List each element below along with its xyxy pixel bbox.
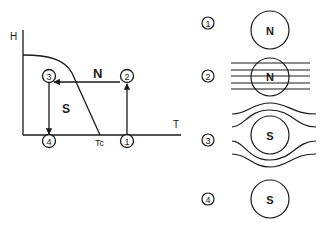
point-1-label: 1 (124, 137, 129, 147)
state-1-number: 1 (205, 19, 210, 29)
critical-field-curve (23, 55, 100, 135)
meissner-effect-diagram: H T Tc N S 1 2 3 4 (0, 0, 331, 230)
point-4-label: 4 (46, 137, 51, 147)
point-3-label: 3 (46, 72, 51, 82)
state-3-phase: S (266, 130, 273, 142)
normal-region-label: N (93, 66, 102, 81)
state-4-number: 4 (205, 195, 210, 205)
state-4-phase: S (266, 194, 273, 206)
phase-diagram (23, 30, 181, 148)
point-2-label: 2 (124, 72, 129, 82)
state-3-number: 3 (205, 136, 210, 146)
t-axis-label: T (173, 119, 179, 130)
state-1-phase: N (266, 25, 274, 37)
h-axis-label: H (10, 31, 17, 42)
state-3-field-lines (232, 103, 316, 167)
state-2-phase: N (266, 71, 274, 83)
tc-label: Tc (95, 138, 105, 148)
state-2-number: 2 (205, 72, 210, 82)
superconducting-region-label: S (62, 102, 70, 116)
